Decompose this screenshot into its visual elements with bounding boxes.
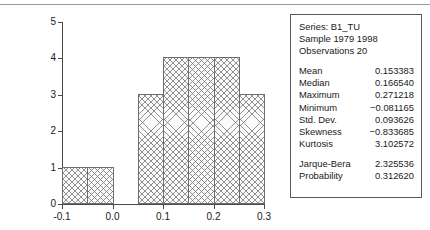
statistic-label: Kurtosis (299, 138, 333, 150)
statistic-value: 0.153383 (375, 65, 414, 77)
statistics-spacer-2 (299, 150, 414, 158)
statistics-panel: Series: B1_TUSample 1979 1998Observation… (290, 14, 422, 198)
statistic-label: Mean (299, 65, 322, 77)
histogram-bar (188, 57, 214, 204)
statistic-row: Maximum0.271218 (299, 89, 414, 101)
x-tick-mark (62, 205, 63, 209)
statistic-label: Std. Dev. (299, 114, 337, 126)
statistic-label: Skewness (299, 126, 342, 138)
statistic-value: 0.271218 (375, 89, 414, 101)
statistics-header-line: Sample 1979 1998 (299, 33, 414, 45)
statistic-test-row: Probability0.312620 (299, 170, 414, 182)
histogram-bar (214, 57, 240, 204)
statistics-rows: Mean0.153383Median0.166540Maximum0.27121… (299, 65, 414, 150)
top-divider-rule (0, 4, 430, 5)
x-tick-mark (214, 205, 215, 209)
statistic-row: Skewness−0.833685 (299, 126, 414, 138)
y-tick-label: 3 (38, 90, 56, 100)
x-tick-mark (264, 205, 265, 209)
histogram-bar (138, 94, 164, 204)
y-tick-label: 5 (38, 17, 56, 27)
statistics-test-rows: Jarque-Bera2.325536Probability0.312620 (299, 158, 414, 182)
statistic-value: −0.081165 (370, 102, 414, 114)
statistics-spacer (299, 57, 414, 65)
y-tick-label: 0 (38, 199, 56, 209)
plot-area (62, 22, 264, 204)
x-tick-label: 0.2 (194, 211, 234, 222)
statistic-label: Minimum (299, 102, 337, 114)
statistic-value: −0.833685 (369, 126, 414, 138)
statistic-row: Minimum−0.081165 (299, 102, 414, 114)
y-tick-label: 2 (38, 126, 56, 136)
statistic-row: Mean0.153383 (299, 65, 414, 77)
x-tick-mark (163, 205, 164, 209)
histogram-bar (62, 167, 88, 204)
x-tick-label: -0.1 (42, 211, 82, 222)
statistic-value: 3.102572 (375, 138, 414, 150)
statistic-label: Median (299, 77, 330, 89)
y-tick-label: 1 (38, 163, 56, 173)
x-tick-label: 0.3 (244, 211, 284, 222)
statistic-row: Kurtosis3.102572 (299, 138, 414, 150)
statistic-test-row: Jarque-Bera2.325536 (299, 158, 414, 170)
statistics-header-line: Observations 20 (299, 45, 414, 57)
x-tick-label: 0.1 (143, 211, 183, 222)
x-tick-mark (113, 205, 114, 209)
x-tick-label: 0.0 (93, 211, 133, 222)
statistics-header: Series: B1_TUSample 1979 1998Observation… (299, 21, 414, 57)
statistic-label: Maximum (299, 89, 340, 101)
statistic-value: 0.166540 (375, 77, 414, 89)
histogram-bar (239, 94, 265, 204)
statistic-row: Median0.166540 (299, 77, 414, 89)
y-tick-label: 4 (38, 53, 56, 63)
statistic-label: Probability (299, 170, 343, 182)
statistic-value: 0.312620 (375, 170, 414, 182)
statistics-header-line: Series: B1_TU (299, 21, 414, 33)
statistic-row: Std. Dev.0.093626 (299, 114, 414, 126)
histogram-bar (87, 167, 113, 204)
statistic-label: Jarque-Bera (299, 158, 351, 170)
statistic-value: 2.325536 (375, 158, 414, 170)
statistic-value: 0.093626 (375, 114, 414, 126)
histogram-bar (163, 57, 189, 204)
